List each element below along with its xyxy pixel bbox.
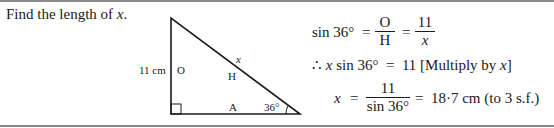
multiply-step: ∴ x sin 36° = 11 [Multiply by x]	[312, 56, 512, 74]
equals-3: =	[350, 90, 358, 107]
equals-2: =	[402, 24, 410, 41]
opposite-label: O	[177, 64, 185, 76]
fraction-11-over-sin36: 11sin 36°	[366, 80, 410, 115]
hypotenuse-variable: x	[236, 53, 241, 65]
hypotenuse-label: H	[228, 70, 236, 82]
sin-lhs: sin 36°	[312, 24, 354, 41]
x-lhs: x	[334, 90, 341, 107]
equals-1: =	[362, 24, 370, 41]
fraction-11-over-x: 11x	[415, 14, 435, 49]
adjacent-label: A	[229, 101, 237, 113]
side-length-label: 11 cm	[139, 64, 166, 76]
fraction-o-over-h: OH	[375, 14, 395, 49]
result-text: = 18·7 cm (to 3 s.f.)	[415, 90, 539, 107]
angle-label: 36°	[264, 101, 279, 113]
